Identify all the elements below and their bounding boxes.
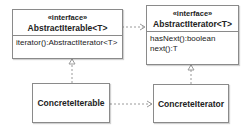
class-abstract-iterator[interactable]: «interface» AbstractIterator<T> hasNext(… (146, 5, 239, 65)
class-header: «interface» AbstractIterable<T> (13, 10, 122, 35)
stereotype-label: «interface» (147, 9, 238, 19)
member-list: hasNext():boolean next():T (147, 32, 238, 56)
method-has-next: hasNext():boolean (150, 34, 235, 44)
class-name: ConcreteIterable (37, 98, 104, 108)
method-next: next():T (150, 44, 235, 54)
class-abstract-iterable[interactable]: «interface» AbstractIterable<T> iterator… (12, 9, 123, 59)
class-concrete-iterator[interactable]: ConcreteIterator (153, 84, 229, 123)
realization-arrow-concrete-iterator (188, 65, 194, 84)
stereotype-label: «interface» (13, 13, 122, 23)
class-name: ConcreteIterator (158, 99, 224, 109)
class-name: AbstractIterable<T> (28, 23, 108, 33)
class-concrete-iterable[interactable]: ConcreteIterable (32, 83, 110, 123)
dependency-arrow-concrete-iterable-to-concrete-iterator (110, 101, 152, 107)
member-list: iterator():AbstractIterator<T> (13, 36, 122, 50)
dependency-arrow-iterable-to-iterator (122, 24, 145, 30)
method-iterator: iterator():AbstractIterator<T> (16, 38, 119, 48)
class-name: AbstractIterator<T> (153, 19, 232, 29)
realization-arrow-concrete-iterable (69, 59, 75, 83)
class-header: «interface» AbstractIterator<T> (147, 6, 238, 31)
